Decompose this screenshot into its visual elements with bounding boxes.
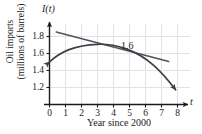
y-tick-label-1-4: 1.4 [20, 66, 44, 76]
y-tick-label-1-2: 1.2 [20, 83, 44, 93]
x-axis-label: Year since 2000 [44, 118, 194, 128]
x-axis-name: t [190, 97, 193, 107]
y-tick-label-1-8: 1.8 [20, 32, 44, 42]
y-axis-label-line-1: Oil imports [5, 0, 16, 85]
oil-imports-chart-figure: Oil imports (millions of barrels) I(t) t… [0, 0, 202, 134]
annotation-tangent-value: 1.6 [121, 41, 134, 51]
y-tick-label-1-6: 1.6 [20, 49, 44, 59]
oil-imports-curve-series [50, 44, 176, 90]
y-axis-name: I(t) [42, 4, 55, 14]
